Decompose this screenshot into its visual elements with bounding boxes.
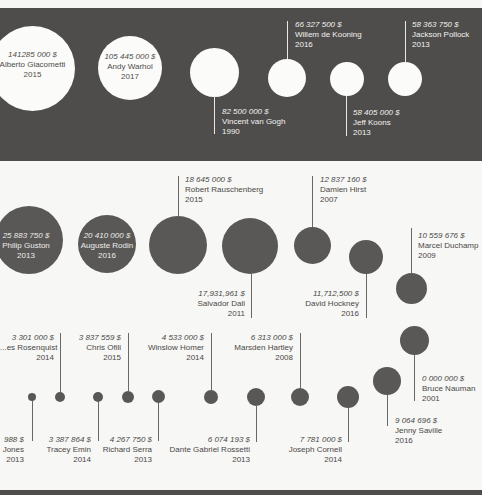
stem-dali (251, 274, 252, 318)
stem-homer (211, 333, 212, 390)
bubble-hartley (291, 388, 309, 406)
bubble-ofili (122, 391, 134, 403)
stem-hirst (312, 176, 313, 227)
stem-jones (32, 401, 33, 441)
stem-de-kooning (287, 21, 288, 59)
label-jones: 988 $ Jones 2013 (0, 435, 24, 465)
label-duchamp: 10 559 676 $ Marcel Duchamp 2009 (418, 231, 478, 261)
label-warhol: 105 445 000 $ Andy Warhol 2017 (98, 52, 162, 82)
label-homer: 4 533 000 $ Winslow Homer 2014 (140, 333, 204, 363)
bubble-hirst (294, 227, 331, 264)
bubble-homer (204, 390, 218, 404)
label-guston: 25 883 750 $ Philip Guston 2013 (0, 231, 57, 261)
label-hartley: 6 313 000 $ Marsden Hartley 2008 (225, 333, 293, 363)
stem-rossetti (256, 406, 257, 442)
label-rodin: 20 410 000 $ Auguste Rodin 2016 (78, 231, 136, 261)
bubble-rosenquist (55, 392, 65, 402)
bubble-de-kooning (268, 59, 306, 97)
label-saville: 9 064 696 $ Jenny Saville 2016 (395, 416, 442, 446)
stem-duchamp (411, 228, 412, 273)
label-rauschenberg: 18 645 000 $ Robert Rauschenberg 2015 (185, 175, 263, 205)
label-nauman: 0 000 000 $ Bruce Nauman 2001 (422, 374, 475, 404)
bubble-dali (222, 218, 278, 274)
stem-hockney (366, 274, 367, 318)
bottom-dark-band (0, 490, 482, 495)
stem-serra (158, 403, 159, 441)
label-koons: 58 405 000 $ Jeff Koons 2013 (353, 108, 400, 138)
label-rosenquist: 3 301 000 $ ...es Rosenquist 2014 (0, 333, 54, 363)
bubble-nauman (400, 326, 429, 355)
stem-saville (387, 395, 388, 426)
label-ofili: 3 837 559 $ Chris Ofili 2015 (70, 333, 121, 363)
stem-hartley (300, 333, 301, 388)
stem-rosenquist (60, 333, 61, 392)
label-hirst: 12 837 160 $ Damien Hirst 2007 (320, 175, 367, 205)
label-giacometti: 141285 000 $ Alberto Giacometti 2015 (0, 50, 70, 80)
stem-pollock (405, 21, 406, 62)
bubble-rossetti (247, 388, 265, 406)
label-van-gogh: 82 500 000 $ Vincent van Gogh 1990 (222, 107, 285, 137)
bubble-jones (28, 393, 36, 401)
stem-van-gogh (214, 96, 215, 134)
label-de-kooning: 66 327 500 $ Willem de Kooning 2016 (295, 20, 362, 50)
bubble-duchamp (396, 273, 427, 304)
label-serra: 4 267 750 $ Richard Serra 2013 (100, 435, 152, 465)
bubble-rauschenberg (149, 216, 207, 274)
label-pollock: 58 363 750 $ Jackson Pollock 2013 (412, 20, 469, 50)
label-hockney: 11,712,500 $ David Hockney 2016 (300, 289, 359, 319)
bubble-hockney (349, 240, 383, 274)
stem-cornell (348, 408, 349, 442)
bubble-emin (93, 392, 103, 402)
label-emin: 3 387 864 $ Tracey Emin 2014 (40, 435, 91, 465)
bubble-cornell (337, 386, 359, 408)
bubble-van-gogh (190, 48, 239, 97)
stem-emin (98, 402, 99, 441)
label-dali: 17,931,961 $ Salvador Dali 2011 (190, 289, 245, 319)
label-rossetti: 6 074 193 $ Dante Gabriel Rossetti 2013 (160, 435, 250, 465)
stem-ofili (128, 333, 129, 391)
bubble-saville (373, 367, 401, 395)
bubble-serra (152, 390, 165, 403)
bubble-pollock (388, 62, 422, 96)
label-cornell: 7 781 000 $ Joseph Cornell 2014 (280, 435, 342, 465)
bubble-koons (330, 62, 364, 96)
stem-nauman (414, 355, 415, 401)
stem-rauschenberg (178, 176, 179, 216)
stem-koons (346, 96, 347, 136)
